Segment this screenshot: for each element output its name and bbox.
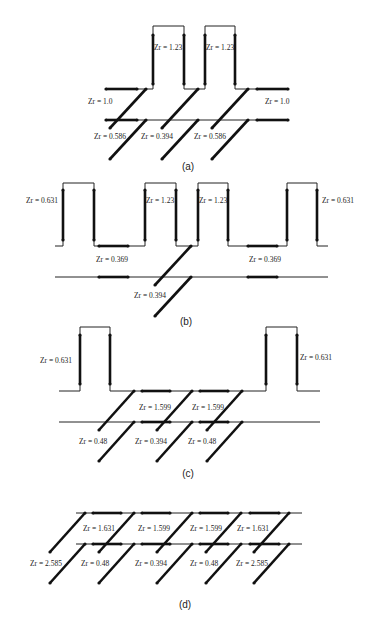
label-b-series1: Zr = 0.369 <box>96 255 128 264</box>
label-a-left: Zr = 1.0 <box>88 97 113 106</box>
label-d-series2: Zr = 1.599 <box>138 524 170 533</box>
label-c-series2: Zr = 1.599 <box>192 403 224 412</box>
label-d-series3: Zr = 1.599 <box>190 524 222 533</box>
label-a-shunt2: Zr = 0.394 <box>141 132 173 141</box>
label-c-shunt1: Zr = 0.48 <box>79 437 107 446</box>
label-d-shunt2: Zr = 0.48 <box>81 559 109 568</box>
caption-d: (d) <box>179 599 191 610</box>
label-a-shunt1: Zr = 0.586 <box>94 132 126 141</box>
label-c-stub-left: Zr = 0.631 <box>40 356 72 365</box>
label-d-shunt4: Zr = 0.48 <box>190 559 218 568</box>
label-b-stub4: Zr = 0.631 <box>322 196 354 205</box>
label-c-stub-right: Zr = 0.631 <box>300 353 332 362</box>
label-b-stub2: Zr = 1.23 <box>146 196 174 205</box>
label-d-shunt3: Zr = 0.394 <box>135 559 167 568</box>
label-b-series2: Zr = 0.369 <box>249 255 281 264</box>
label-b-shunt: Zr = 0.394 <box>134 291 166 300</box>
label-a-right: Zr = 1.0 <box>265 97 290 106</box>
caption-a: (a) <box>182 161 194 172</box>
label-a-shunt3: Zr = 0.586 <box>194 132 226 141</box>
label-c-shunt3: Zr = 0.48 <box>188 437 216 446</box>
label-d-series1: Zr = 1.631 <box>83 524 115 533</box>
label-a-stub2: Zr = 1.23 <box>206 43 234 52</box>
label-b-stub3: Zr = 1.23 <box>199 196 227 205</box>
caption-c: (c) <box>182 468 194 479</box>
panel-a: Zr = 1.23 Zr = 1.23 Zr = 1.0 Zr = 1.0 Zr… <box>88 26 290 172</box>
label-a-stub1: Zr = 1.23 <box>154 43 182 52</box>
label-c-series1: Zr = 1.599 <box>139 403 171 412</box>
label-d-shunt5: Zr = 2.585 <box>236 559 268 568</box>
panel-c: Zr = 0.631 Zr = 0.631 Zr = 1.599 Zr = 1.… <box>40 327 332 479</box>
label-d-series4: Zr = 1.631 <box>237 524 269 533</box>
caption-b: (b) <box>180 316 192 327</box>
panel-b: Zr = 0.631 Zr = 1.23 Zr = 1.23 Zr = 0.63… <box>26 183 354 327</box>
panel-d: Zr = 1.631 Zr = 1.599 Zr = 1.599 Zr = 1.… <box>30 511 302 610</box>
transmission-line-diagram: Zr = 1.23 Zr = 1.23 Zr = 1.0 Zr = 1.0 Zr… <box>0 0 374 633</box>
label-c-shunt2: Zr = 0.394 <box>135 437 167 446</box>
label-b-stub1: Zr = 0.631 <box>26 196 58 205</box>
label-d-shunt1: Zr = 2.585 <box>30 559 62 568</box>
